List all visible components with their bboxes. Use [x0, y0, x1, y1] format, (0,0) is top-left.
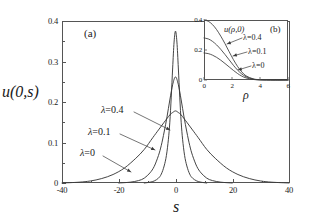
inset-annotation-lambda-01: λ=0.1 [248, 47, 266, 56]
inset-annotation-lambda-0: λ=0 [252, 61, 264, 70]
figure-root: 0.4 0.3 0.2 0.1 0 -40 -20 0 20 40 u(0,s)… [0, 0, 311, 224]
inset-annotation-lambda-04: λ=0.4 [243, 33, 261, 42]
annotation-value: =0 [256, 61, 265, 70]
annotation-value: =0.1 [252, 47, 267, 56]
annotation-value: =0.4 [247, 33, 262, 42]
inset-curves [0, 0, 311, 224]
